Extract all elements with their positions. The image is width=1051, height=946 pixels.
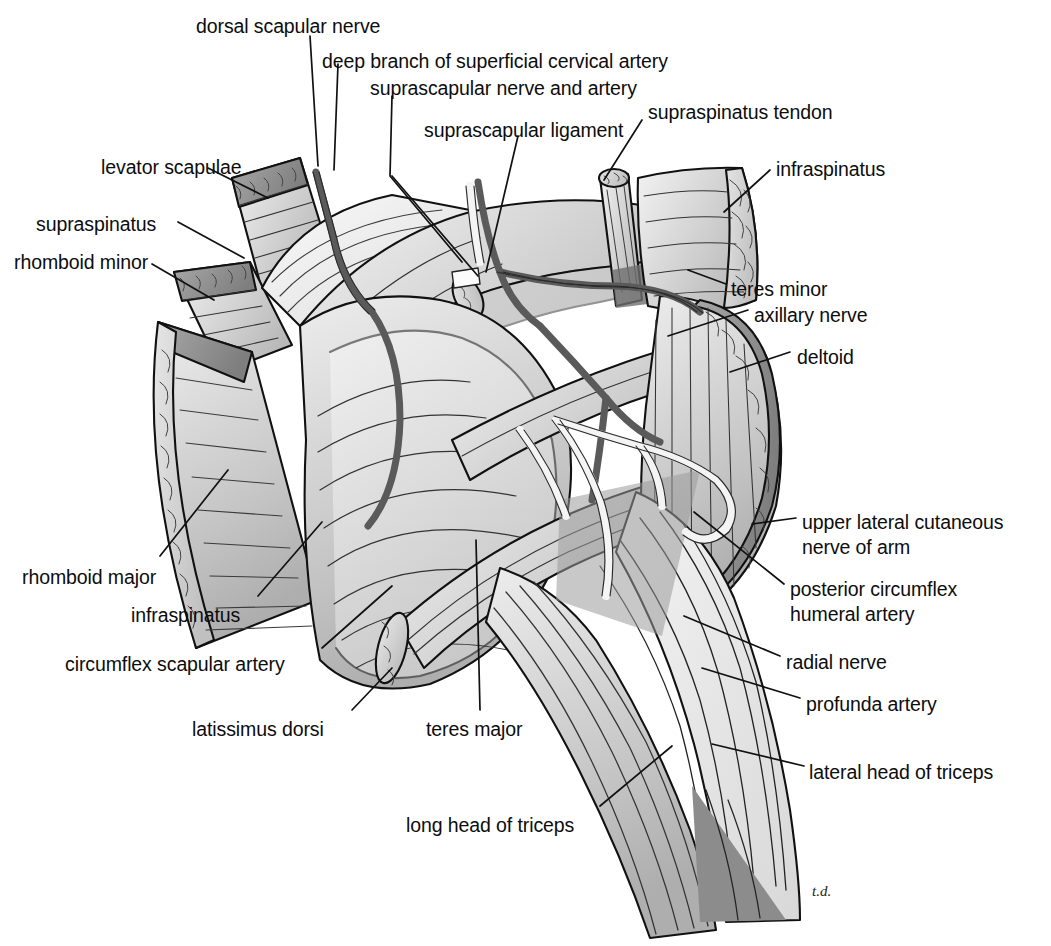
infraspinatus-muscle-body (300, 296, 571, 688)
label-suprascapular-ligament: suprascapular ligament (424, 118, 623, 143)
levator-scapulae-muscle (232, 158, 330, 290)
rhomboid-minor-muscle (174, 262, 292, 372)
supraspinatus-muscle (262, 195, 470, 326)
label-profunda-artery: profunda artery (806, 692, 937, 717)
lateral-head-of-triceps (600, 492, 800, 922)
latissimus-dorsi-cut-end (370, 610, 415, 687)
label-posterior-circumflex-humeral: posterior circumflex humeral artery (790, 577, 957, 627)
supraspinatus-tendon (599, 169, 648, 308)
label-dorsal-scapular-nerve: dorsal scapular nerve (196, 14, 380, 39)
teres-minor-muscle (452, 334, 736, 480)
label-radial-nerve: radial nerve (786, 650, 887, 675)
nerves-pale-outline (466, 186, 735, 596)
label-suprascapular-nerve-and-artery: suprascapular nerve and artery (370, 76, 637, 101)
label-circumflex-scapular-artery: circumflex scapular artery (65, 652, 285, 677)
label-teres-minor: teres minor (731, 277, 827, 302)
bone-cut-stub (446, 271, 490, 322)
leader-lines (152, 36, 804, 806)
label-teres-major: teres major (426, 717, 522, 742)
label-deep-branch-superficial-cervical: deep branch of superficial cervical arte… (322, 49, 668, 74)
label-infraspinatus-left: infraspinatus (131, 603, 240, 628)
label-axillary-nerve: axillary nerve (754, 303, 867, 328)
label-supraspinatus-left: supraspinatus (36, 212, 156, 237)
label-rhomboid-minor: rhomboid minor (14, 250, 148, 275)
label-lateral-head-of-triceps: lateral head of triceps (809, 760, 993, 785)
suprascapular-ligament (452, 268, 480, 288)
label-latissimus-dorsi: latissimus dorsi (192, 717, 324, 742)
teres-major-muscle (370, 470, 730, 686)
scapular-spine (300, 200, 716, 430)
label-rhomboid-major: rhomboid major (22, 565, 156, 590)
label-levator-scapulae: levator scapulae (101, 155, 241, 180)
label-supraspinatus-tendon: supraspinatus tendon (648, 100, 832, 125)
svg-text:t.d.: t.d. (812, 883, 831, 899)
long-head-of-triceps (486, 568, 716, 938)
label-deltoid: deltoid (797, 345, 854, 370)
anatomical-figure: t.d. dorsal scapular nervedeep branch of… (0, 0, 1051, 946)
nerves-pale (470, 186, 731, 596)
vessels-dark (316, 172, 700, 526)
rhomboid-major-muscle (154, 322, 318, 648)
label-long-head-of-triceps: long head of triceps (406, 813, 574, 838)
deltoid-muscle (641, 296, 781, 614)
vessels-dark-outline (313, 172, 703, 314)
label-upper-lateral-cutaneous-nerve: upper lateral cutaneous nerve of arm (802, 510, 1004, 560)
label-infraspinatus-right: infraspinatus (776, 157, 885, 182)
